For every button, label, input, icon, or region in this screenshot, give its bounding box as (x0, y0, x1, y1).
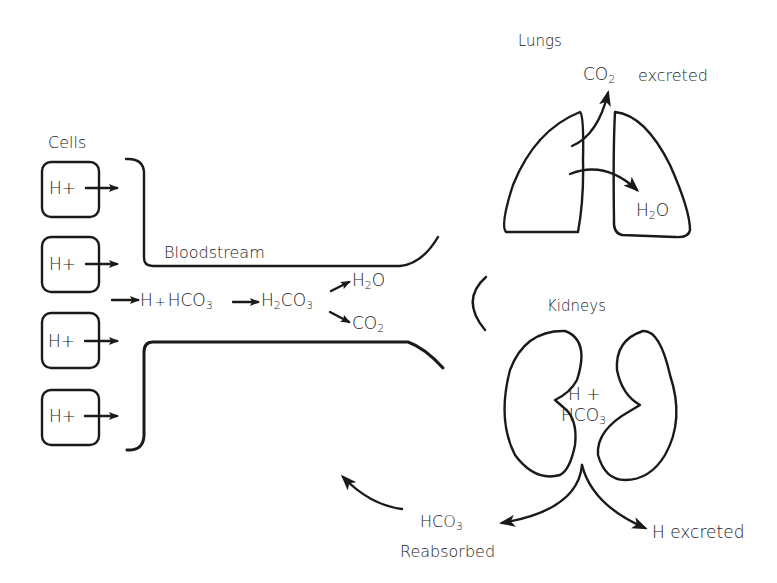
lung-co2-arrow (572, 93, 608, 146)
reaction-product-co2: CO2 (352, 313, 384, 333)
kidney-inner-h-plus: H + (568, 384, 600, 404)
bloodstream-label: Bloodstream (164, 243, 265, 262)
kidney-right (598, 331, 677, 480)
plus-sign: + (155, 294, 166, 309)
reaction-reactants: H+HCO3 (140, 290, 213, 310)
return-arrow (343, 477, 402, 509)
reaction-arrow-to-h2o (331, 282, 349, 291)
kidney-hco3-sub: 3 (599, 414, 606, 427)
lungs-label: Lungs (518, 32, 562, 50)
lungs-h2o: H2O (636, 200, 669, 220)
lung-left (504, 112, 583, 232)
h2co3-h: H (261, 290, 274, 310)
reaction-arrow-to-co2 (330, 312, 349, 322)
lung-h2o-arrow (570, 170, 637, 190)
cells-label: Cells (48, 133, 86, 152)
cell-3-content: H+ (48, 331, 75, 351)
h2o-o: O (372, 270, 385, 290)
bloodstream-lower-wall (127, 342, 443, 450)
diagram-canvas (0, 0, 777, 583)
cell-2-content: H+ (49, 254, 76, 274)
h2co3-sub-2: 2 (274, 299, 281, 312)
lungs-h2o-o: O (656, 200, 669, 220)
kidney-inner-hco3: HCO3 (561, 405, 606, 425)
lungs-co2-co: CO (583, 64, 608, 84)
lungs-co2-sub: 2 (608, 73, 615, 86)
h2o-sub: 2 (365, 279, 372, 292)
reabsorbed-hco3: HCO3 (420, 512, 463, 531)
reaction-product-h2o: H2O (352, 270, 385, 290)
cell-4-content: H+ (49, 406, 76, 426)
reaction-intermediate-h2co3: H2CO3 (261, 290, 313, 310)
reactant-hco3: HCO (168, 290, 206, 310)
kidney-excrete-arrow (582, 465, 645, 528)
h2co3-sub-3: 3 (306, 299, 313, 312)
reactant-hco3-subscript: 3 (206, 299, 213, 312)
h-excreted-label: H excreted (652, 522, 744, 542)
h2o-h: H (352, 270, 365, 290)
co2-co: CO (352, 313, 377, 333)
reactant-h: H (140, 290, 153, 310)
connector-arc (473, 277, 486, 330)
lungs-co2-excreted-label: excreted (638, 66, 708, 85)
reabsorbed-hco3-sub: 3 (456, 520, 463, 533)
h2co3-co: CO (281, 290, 306, 310)
lungs-h2o-sub: 2 (649, 209, 656, 222)
reabsorbed-hco3-base: HCO (420, 512, 456, 531)
kidneys-label: Kidneys (547, 297, 606, 315)
reabsorbed-label: Reabsorbed (400, 542, 495, 561)
lungs-h2o-h: H (636, 200, 649, 220)
cell-1-content: H+ (49, 178, 76, 198)
lungs-co2: CO2 (583, 64, 615, 84)
kidney-reabsorb-arrow (502, 465, 582, 523)
co2-sub: 2 (377, 322, 384, 335)
kidney-hco3-base: HCO (561, 405, 599, 425)
